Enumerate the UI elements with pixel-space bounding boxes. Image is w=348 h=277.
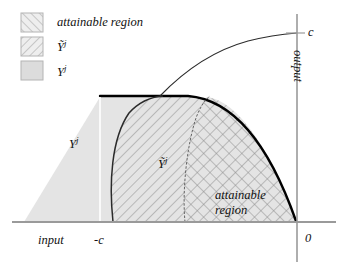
legend-swatch-y-tilde — [21, 37, 43, 56]
legend-label-attainable-region: attainable region — [57, 16, 143, 29]
region-label-Y-j: Yj — [69, 136, 78, 151]
legend-label-y-tilde-base: Ỹ — [57, 40, 64, 54]
region-label-Y-tilde-j-base: Ỹ — [158, 157, 165, 171]
legend-label-y-tilde: Ỹj — [57, 39, 66, 54]
legend-swatch-attainable-region — [21, 13, 43, 32]
legend-swatch-y — [21, 61, 43, 80]
region-label-Y-j-sup: j — [76, 135, 79, 145]
region-label-Y-tilde-j: Ỹj — [158, 156, 167, 171]
legend-label-y-base: Y — [57, 65, 64, 79]
x-axis-label: input — [38, 234, 64, 247]
region-label-Y-tilde-j-sup: j — [165, 155, 168, 165]
x-tick-label-minus-c: -c — [94, 234, 104, 247]
region-label-attainable-line2: region — [215, 204, 247, 217]
region-label-attainable-line1: attainable — [215, 189, 266, 202]
region-label-Y-j-base: Y — [69, 137, 76, 151]
upper-production-curve — [160, 33, 297, 96]
origin-label: 0 — [305, 232, 311, 245]
y-axis-label: output — [290, 50, 305, 82]
region-Y-j — [24, 97, 100, 222]
y-tick-label-c: c — [308, 26, 314, 39]
legend-label-y: Yj — [57, 64, 66, 79]
legend-label-y-sup: j — [64, 63, 67, 73]
legend-label-y-tilde-sup: j — [64, 38, 67, 48]
